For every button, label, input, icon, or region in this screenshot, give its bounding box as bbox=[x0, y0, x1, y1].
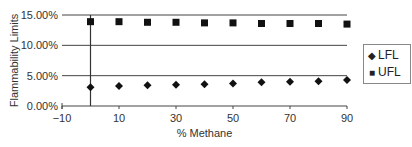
data-point-ufl bbox=[173, 19, 180, 26]
legend-item-lfl: ◆ LFL bbox=[367, 47, 407, 64]
data-point-ufl bbox=[87, 18, 94, 25]
data-point-lfl bbox=[343, 76, 351, 84]
x-tick-label: 90 bbox=[341, 112, 353, 124]
y-axis-title: Flammability Limits bbox=[8, 13, 20, 107]
y-tick-label: 5.00% bbox=[27, 70, 58, 82]
data-point-ufl bbox=[287, 20, 294, 27]
data-point-lfl bbox=[115, 82, 123, 90]
y-tick-label: 15.00% bbox=[21, 9, 59, 21]
y-tick-label: 10.00% bbox=[21, 39, 59, 51]
x-tick-label: 10 bbox=[113, 112, 125, 124]
legend-item-ufl: ■ UFL bbox=[367, 64, 407, 81]
x-tick-label: 70 bbox=[284, 112, 296, 124]
legend: ◆ LFL ■ UFL bbox=[363, 44, 411, 84]
data-point-ufl bbox=[344, 21, 351, 28]
legend-label: LFL bbox=[378, 47, 399, 64]
square-icon: ■ bbox=[367, 64, 377, 81]
x-axis-title: % Methane bbox=[177, 127, 233, 139]
data-point-ufl bbox=[315, 20, 322, 27]
data-point-lfl bbox=[144, 81, 152, 89]
data-point-lfl bbox=[201, 80, 209, 88]
diamond-icon: ◆ bbox=[367, 47, 377, 64]
data-point-lfl bbox=[172, 81, 180, 89]
flammability-chart: 0.00%5.00%10.00%15.00%−101030507090% Met… bbox=[0, 0, 412, 147]
legend-label: UFL bbox=[378, 64, 401, 81]
data-point-ufl bbox=[230, 19, 237, 26]
data-point-lfl bbox=[87, 83, 95, 91]
data-point-ufl bbox=[201, 19, 208, 26]
data-point-ufl bbox=[144, 19, 151, 26]
data-point-lfl bbox=[258, 78, 266, 86]
data-point-ufl bbox=[258, 20, 265, 27]
x-tick-label: 30 bbox=[170, 112, 182, 124]
x-tick-label: 50 bbox=[227, 112, 239, 124]
data-point-ufl bbox=[116, 18, 123, 25]
x-tick-label: −10 bbox=[53, 112, 72, 124]
data-point-lfl bbox=[229, 80, 237, 88]
y-tick-label: 0.00% bbox=[27, 100, 58, 112]
data-point-lfl bbox=[286, 78, 294, 86]
data-point-lfl bbox=[315, 77, 323, 85]
